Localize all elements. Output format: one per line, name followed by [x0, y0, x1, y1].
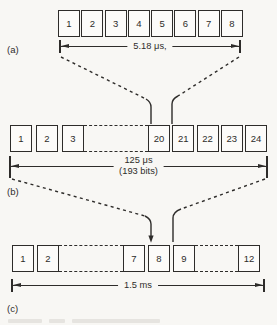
frame-cell: 4 — [128, 10, 150, 37]
dimension-label-b-line2: (193 bits) — [119, 166, 158, 177]
right-arrowhead-icon — [255, 283, 263, 287]
frame-cell: 2 — [81, 10, 103, 37]
frame-cell: 5 — [151, 10, 173, 37]
dimension-arrow-a: 5.18 μs, — [59, 40, 241, 53]
frame-cell: 12 — [238, 245, 260, 272]
dimension-arrow-c: 1.5 ms — [11, 279, 265, 292]
frame-cell: 22 — [197, 125, 219, 152]
frame-cell: 8 — [148, 245, 170, 272]
frame-row-b-left: 123 — [10, 125, 84, 152]
frame-cell: 6 — [174, 10, 196, 37]
caption-fragment — [72, 319, 160, 323]
frame-cell: 21 — [172, 125, 194, 152]
frame-cell: 8 — [221, 10, 243, 37]
frame-cell: 1 — [58, 10, 80, 37]
frame-row-c-mid: 789 — [123, 245, 195, 272]
frame-cell: 3 — [62, 125, 84, 152]
frame-cell: 1 — [10, 125, 32, 152]
left-arrowhead-icon — [11, 164, 19, 168]
frame-cell: 3 — [105, 10, 127, 37]
dashed-line-a-right — [178, 57, 239, 96]
frame-row-c-left: 12 — [12, 245, 59, 272]
dimension-arrow-b: 125 μs (193 bits) — [9, 156, 268, 178]
dimension-label-b-line1: 125 μs — [119, 155, 158, 166]
frame-cell: 20 — [148, 125, 170, 152]
dimension-label-c: 1.5 ms — [118, 280, 158, 291]
dimension-end-tick — [266, 156, 268, 178]
ellipsis-gap-c1 — [59, 245, 123, 272]
caption-fragment — [49, 319, 65, 323]
frame-cell: 7 — [123, 245, 145, 272]
frame-row-b-right: 2021222324 — [148, 125, 267, 152]
frame-cell: 2 — [36, 125, 58, 152]
dimension-label-b: 125 μs (193 bits) — [113, 155, 164, 177]
row-label-b: (b) — [7, 186, 19, 197]
dashed-line-a-left — [61, 57, 146, 99]
frame-cell: 9 — [173, 245, 195, 272]
ellipsis-gap-c2 — [195, 245, 238, 272]
funnel-a-left-hook — [146, 99, 151, 124]
dashed-line-b-left — [12, 179, 145, 216]
frame-row-a: 12345678 — [58, 10, 243, 37]
left-arrowhead-icon — [13, 283, 21, 287]
row-label-c: (c) — [7, 303, 18, 314]
frame-structure-diagram: 12345678 5.18 μs, (a) 123 2021222324 125… — [0, 0, 277, 325]
dimension-end-tick — [263, 279, 265, 292]
frame-cell: 23 — [221, 125, 243, 152]
right-arrowhead-icon — [231, 44, 239, 48]
left-arrowhead-icon — [61, 44, 69, 48]
funnel-a-right-hook — [172, 96, 178, 124]
frame-cell: 7 — [198, 10, 220, 37]
cut-off-caption — [8, 319, 160, 323]
dimension-label-a: 5.18 μs, — [127, 41, 172, 52]
funnel-b-left-hook — [145, 216, 151, 239]
frame-cell: 1 — [12, 245, 34, 272]
down-arrowhead-icon — [148, 236, 153, 243]
dimension-end-tick — [239, 40, 241, 53]
frame-row-c-right: 12 — [238, 245, 262, 272]
frame-cell: 24 — [245, 125, 267, 152]
ellipsis-gap-b — [84, 125, 148, 152]
row-label-a: (a) — [7, 44, 19, 55]
funnel-b-right-hook — [173, 209, 181, 242]
right-arrowhead-icon — [258, 164, 266, 168]
caption-fragment — [8, 319, 42, 323]
dashed-line-b-right — [181, 179, 265, 209]
frame-cell: 2 — [37, 245, 59, 272]
